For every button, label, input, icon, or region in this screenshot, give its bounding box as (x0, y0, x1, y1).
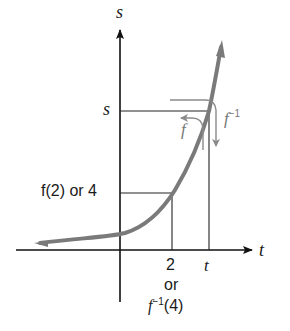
finv-arg: (4) (164, 297, 184, 314)
curve-up-arrow-icon (216, 40, 225, 58)
x-or-label: or (164, 276, 178, 294)
function-curve (40, 47, 221, 243)
finv-arrow-sup: −1 (229, 108, 240, 119)
f2-or-4-label: f(2) or 4 (41, 182, 97, 200)
x-finv4-label: f−1(4) (148, 296, 183, 315)
x-t-label: t (204, 256, 209, 276)
y-axis-label: s (116, 2, 123, 23)
f-arrow-label: f (181, 120, 186, 140)
x-two-label: 2 (166, 256, 175, 274)
s-level-label: s (103, 99, 110, 120)
finv-arrow-label: f−1 (224, 108, 240, 129)
function-inverse-diagram (0, 0, 290, 331)
x-axis-label: t (259, 240, 264, 261)
finv-sup: −1 (152, 296, 163, 307)
